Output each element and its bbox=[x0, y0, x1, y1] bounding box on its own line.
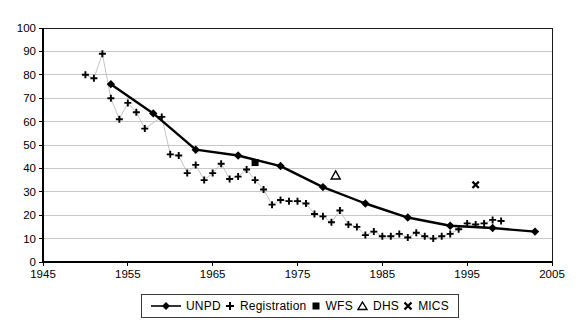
registration-plus-marker bbox=[107, 95, 114, 102]
unpd-line-diamond-icon bbox=[151, 301, 181, 311]
registration-plus-marker bbox=[447, 230, 454, 237]
registration-plus-marker bbox=[404, 234, 411, 241]
registration-plus-marker bbox=[277, 196, 284, 203]
y-tick-label: 0 bbox=[30, 256, 36, 268]
x-tick-label: 1945 bbox=[30, 268, 56, 280]
unpd-diamond-marker bbox=[234, 151, 242, 159]
registration-plus-marker bbox=[413, 229, 420, 236]
unpd-diamond-marker bbox=[361, 199, 369, 207]
legend-item-unpd: UNPD bbox=[151, 299, 221, 313]
y-tick-label: 40 bbox=[23, 162, 36, 174]
registration-plus-marker bbox=[481, 220, 488, 227]
y-tick-label: 60 bbox=[23, 116, 36, 128]
legend: UNPD Registration WFS DHS MICS bbox=[141, 294, 459, 318]
unpd-diamond-marker bbox=[276, 162, 284, 170]
bold-x-marker-icon bbox=[403, 301, 413, 311]
unpd-diamond-marker bbox=[446, 222, 454, 230]
registration-plus-marker bbox=[294, 198, 301, 205]
x-tick-label: 1975 bbox=[285, 268, 311, 280]
wfs-square-marker bbox=[252, 159, 259, 166]
registration-plus-marker bbox=[319, 213, 326, 220]
registration-plus-marker bbox=[269, 201, 276, 208]
registration-plus-marker bbox=[370, 228, 377, 235]
unpd-diamond-marker bbox=[319, 183, 327, 191]
y-tick-label: 10 bbox=[23, 233, 36, 245]
registration-plus-marker bbox=[328, 219, 335, 226]
unpd-line bbox=[111, 84, 535, 231]
registration-plus-marker bbox=[82, 71, 89, 78]
chart-canvas: 0102030405060708090100194519551965197519… bbox=[0, 0, 585, 335]
open-triangle-marker-icon bbox=[357, 301, 368, 311]
y-tick-label: 20 bbox=[23, 209, 36, 221]
legend-label-dhs: DHS bbox=[373, 299, 399, 313]
x-tick-label: 1985 bbox=[370, 268, 396, 280]
legend-item-dhs: DHS bbox=[357, 299, 399, 313]
dhs-triangle-marker bbox=[331, 171, 340, 179]
legend-item-mics: MICS bbox=[403, 299, 449, 313]
legend-label-registration: Registration bbox=[240, 299, 306, 313]
registration-plus-marker bbox=[396, 230, 403, 237]
legend-item-wfs: WFS bbox=[311, 299, 353, 313]
registration-line bbox=[85, 54, 501, 239]
registration-plus-marker bbox=[90, 75, 97, 82]
x-tick-label: 1955 bbox=[115, 268, 141, 280]
x-tick-label: 2005 bbox=[539, 268, 565, 280]
y-tick-label: 90 bbox=[23, 45, 36, 57]
y-tick-label: 70 bbox=[23, 92, 36, 104]
unpd-diamond-marker bbox=[404, 213, 412, 221]
y-tick-label: 30 bbox=[23, 186, 36, 198]
registration-plus-marker bbox=[175, 152, 182, 159]
registration-plus-marker bbox=[489, 216, 496, 223]
x-tick-label: 1995 bbox=[454, 268, 480, 280]
y-tick-label: 100 bbox=[17, 22, 36, 34]
filled-square-marker-icon bbox=[311, 301, 321, 311]
registration-plus-marker bbox=[286, 198, 293, 205]
legend-label-mics: MICS bbox=[418, 299, 449, 313]
registration-plus-marker bbox=[345, 221, 352, 228]
registration-plus-marker bbox=[167, 151, 174, 158]
y-tick-label: 50 bbox=[23, 139, 36, 151]
registration-plus-marker bbox=[226, 175, 233, 182]
registration-plus-marker bbox=[430, 235, 437, 242]
plus-marker-icon bbox=[225, 301, 235, 311]
unpd-diamond-marker bbox=[531, 227, 539, 235]
registration-plus-marker bbox=[498, 218, 505, 225]
legend-label-unpd: UNPD bbox=[186, 299, 221, 313]
x-tick-label: 1965 bbox=[200, 268, 226, 280]
chart-figure: 0102030405060708090100194519551965197519… bbox=[0, 0, 585, 335]
registration-plus-marker bbox=[336, 207, 343, 214]
mics-x-marker bbox=[472, 182, 478, 188]
y-tick-label: 80 bbox=[23, 69, 36, 81]
registration-plus-marker bbox=[141, 125, 148, 132]
legend-label-wfs: WFS bbox=[326, 299, 353, 313]
legend-item-registration: Registration bbox=[225, 299, 306, 313]
unpd-diamond-marker bbox=[488, 224, 496, 232]
